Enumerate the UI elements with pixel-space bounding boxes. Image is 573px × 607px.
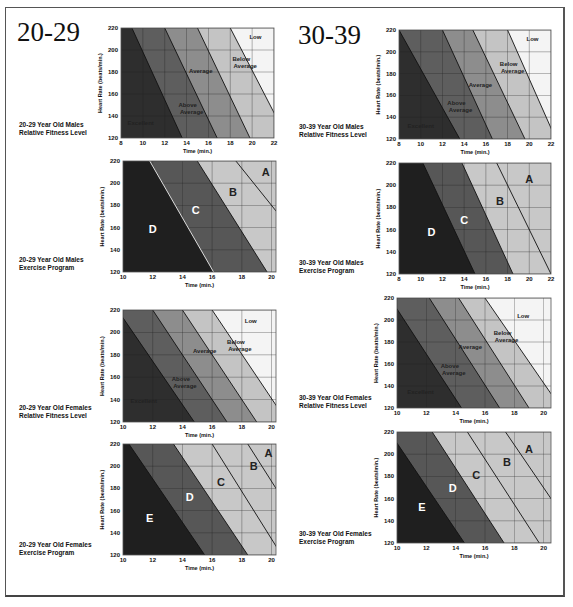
svg-text:Heart Rate (beats/min.): Heart Rate (beats/min.)	[373, 457, 379, 517]
svg-text:10: 10	[394, 545, 401, 551]
svg-text:B: B	[503, 456, 511, 468]
svg-text:180: 180	[384, 473, 395, 479]
svg-text:220: 220	[384, 429, 395, 435]
svg-text:Time (min.): Time (min.)	[459, 553, 488, 559]
svg-text:14: 14	[452, 545, 459, 551]
svg-text:120: 120	[384, 540, 395, 546]
svg-text:140: 140	[384, 518, 395, 524]
svg-text:200: 200	[384, 451, 395, 457]
svg-text:C: C	[472, 469, 480, 481]
svg-text:A: A	[525, 443, 533, 455]
svg-text:12: 12	[423, 545, 430, 551]
svg-text:18: 18	[511, 545, 518, 551]
svg-text:D: D	[449, 482, 457, 494]
svg-text:16: 16	[482, 545, 489, 551]
svg-text:160: 160	[384, 496, 395, 502]
svg-text:20: 20	[540, 545, 547, 551]
svg-text:E: E	[418, 501, 425, 513]
